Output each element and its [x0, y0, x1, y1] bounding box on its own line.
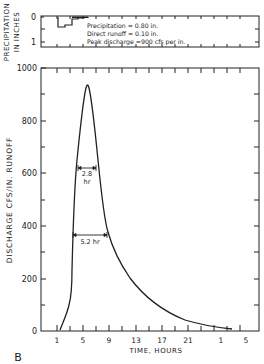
precip-ylabel-line2: IN INCHES [13, 12, 21, 52]
peak-annotation: Peak discharge =900 cfs per in. [87, 38, 185, 46]
ytick-600: 600 [22, 169, 37, 178]
ytick-0: 0 [32, 327, 37, 336]
xtick-21: 21 [183, 336, 193, 345]
xtick-1: 1 [55, 336, 60, 345]
width-2-8hr-label: 2.8 [82, 170, 92, 178]
xtick-9: 9 [107, 336, 112, 345]
xtick-17: 17 [157, 336, 167, 345]
x-axis-label: TIME, HOURS [128, 347, 182, 355]
precip-ytick-1: 1 [31, 38, 36, 47]
precip-ytick-0: 0 [31, 13, 36, 22]
hydrograph-curve [60, 85, 232, 330]
y-axis-label: DISCHARGE CFS/IN. RUNOFF [5, 137, 14, 263]
hydrograph-figure: 0 1 Precipitation = 0.80 in. Direct runo… [0, 0, 264, 364]
precip-panel: 0 1 Precipitation = 0.80 in. Direct runo… [3, 3, 259, 61]
precip-ylabel-line1: PRECIPITATION [3, 3, 11, 61]
ytick-400: 400 [22, 222, 37, 231]
runoff-annotation: Direct runoff = 0.10 in. [87, 30, 158, 37]
ytick-800: 800 [22, 117, 37, 126]
precip-annotation: Precipitation = 0.80 in. [87, 22, 158, 30]
figure-label: B [14, 351, 22, 364]
discharge-panel: 2.8 hr 5.2 hr 1000 800 600 400 200 0 1 5… [5, 64, 259, 355]
xtick-13: 13 [131, 336, 141, 345]
precip-hyetograph [58, 17, 88, 27]
width-5-2hr-label: 5.2 hr [80, 238, 100, 246]
xtick-1-next-day: 1 [219, 336, 224, 345]
width-2-8hr-unit: hr [84, 178, 91, 186]
ytick-1000: 1000 [17, 64, 37, 73]
ytick-200: 200 [22, 275, 37, 284]
xtick-5: 5 [81, 336, 86, 345]
xtick-5-next-day: 5 [244, 336, 249, 345]
